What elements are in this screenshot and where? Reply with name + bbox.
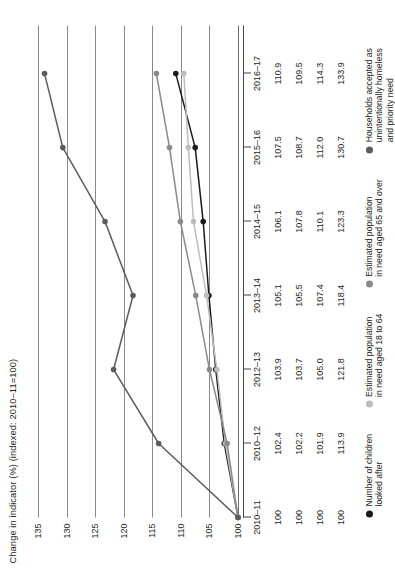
y-tick-115: 115 — [147, 523, 157, 537]
table-cell: 106.1 — [273, 210, 283, 233]
table-cell: 105.5 — [294, 284, 304, 307]
series-layer — [24, 25, 238, 517]
data-table: 2010–112010–122012–132013–142014–152015–… — [252, 25, 357, 517]
legend-label: Households accepted as unintentionally h… — [364, 48, 395, 142]
table-cell: 108.7 — [294, 136, 304, 159]
table-header-row: 2010–112010–122012–132013–142014–152015–… — [252, 25, 273, 517]
table-row: 100113.9121.8118.4123.3130.7133.9 — [336, 25, 357, 517]
y-tick-105: 105 — [204, 523, 214, 538]
legend-item-0[interactable]: Number of children looked after — [364, 433, 385, 517]
table-header-cell: 2012–13 — [252, 352, 262, 387]
data-point — [186, 144, 192, 150]
table-cell: 133.9 — [336, 62, 346, 85]
data-point — [193, 292, 199, 298]
data-point — [200, 218, 206, 224]
y-axis-title: Change in indicator (%) (indexed: 2010–1… — [8, 358, 18, 563]
legend-item-2[interactable]: Estimated population in need aged 65 and… — [364, 179, 385, 287]
legend-item-3[interactable]: Households accepted as unintentionally h… — [364, 48, 395, 153]
table-cell: 107.5 — [273, 136, 283, 159]
data-point — [60, 144, 66, 150]
table-cell: 102.4 — [273, 432, 283, 455]
y-tick-135: 135 — [33, 523, 43, 538]
y-tick-120: 120 — [119, 523, 129, 538]
category-tick — [243, 516, 251, 517]
data-point — [173, 70, 179, 76]
table-header-cell: 2016–17 — [252, 56, 262, 91]
table-cell: 100 — [294, 509, 304, 524]
table-cell: 101.9 — [315, 432, 325, 455]
table-row: 100102.4103.9105.1106.1107.5110.9 — [273, 25, 294, 517]
legend-marker-icon — [366, 280, 373, 287]
table-cell: 114.3 — [315, 62, 325, 84]
table-cell: 107.8 — [294, 210, 304, 233]
table-cell: 113.9 — [336, 432, 346, 454]
legend-item-1[interactable]: Estimated population in need aged 18 to … — [364, 313, 385, 407]
gridline-100 — [238, 25, 239, 517]
legend-label: Estimated population in need aged 65 and… — [364, 179, 385, 276]
table-cell: 102.2 — [294, 432, 304, 455]
category-tick — [243, 220, 251, 221]
table-header-cell: 2013–14 — [252, 278, 262, 313]
table-header-cell: 2015–16 — [252, 130, 262, 165]
table-cell: 103.9 — [273, 358, 283, 381]
category-axis — [243, 25, 252, 517]
table-cell: 110.9 — [273, 62, 283, 84]
plot-area: 100105110115120125130135 — [24, 25, 238, 517]
table-cell: 123.3 — [336, 210, 346, 233]
legend-marker-icon — [366, 146, 373, 153]
legend-marker-icon — [366, 510, 373, 517]
data-point — [192, 144, 198, 150]
table-cell: 103.7 — [294, 358, 304, 381]
table-row: 100102.2103.7105.5107.8108.7109.5 — [294, 25, 315, 517]
y-tick-130: 130 — [62, 523, 72, 538]
table-cell: 118.4 — [336, 284, 346, 306]
legend-marker-icon — [366, 400, 373, 407]
series-2 — [154, 70, 241, 520]
table-cell: 105.0 — [315, 358, 325, 381]
table-cell: 107.4 — [315, 284, 325, 307]
table-cell: 100 — [273, 509, 283, 524]
data-point — [42, 70, 48, 76]
category-tick — [243, 368, 251, 369]
table-cell: 130.7 — [336, 136, 346, 159]
data-point — [111, 366, 117, 372]
data-point — [181, 70, 187, 76]
data-point — [207, 366, 213, 372]
category-tick — [243, 146, 251, 147]
table-header-cell: 2010–12 — [252, 425, 262, 460]
legend: Number of children looked afterEstimated… — [364, 48, 395, 517]
data-point — [154, 70, 160, 76]
category-tick — [243, 72, 251, 73]
data-point — [167, 144, 173, 150]
table-cell: 110.1 — [315, 210, 325, 232]
category-tick — [243, 294, 251, 295]
y-tick-125: 125 — [90, 523, 100, 538]
table-header-cell: 2010–11 — [252, 500, 262, 534]
data-point — [130, 292, 136, 298]
category-tick — [243, 442, 251, 443]
y-tick-110: 110 — [176, 523, 186, 537]
table-cell: 112.0 — [315, 136, 325, 158]
table-row: 100101.9105.0107.4110.1112.0114.3 — [315, 25, 336, 517]
table-cell: 121.8 — [336, 358, 346, 381]
table-cell: 100 — [315, 509, 325, 524]
legend-label: Number of children looked after — [364, 433, 385, 506]
table-cell: 105.1 — [273, 284, 283, 307]
table-cell: 100 — [336, 509, 346, 524]
table-cell: 109.5 — [294, 62, 304, 85]
y-tick-100: 100 — [233, 523, 243, 538]
data-point — [178, 218, 184, 224]
table-header-cell: 2014–15 — [252, 204, 262, 239]
data-point — [191, 218, 197, 224]
legend-label: Estimated population in need aged 18 to … — [364, 313, 385, 396]
